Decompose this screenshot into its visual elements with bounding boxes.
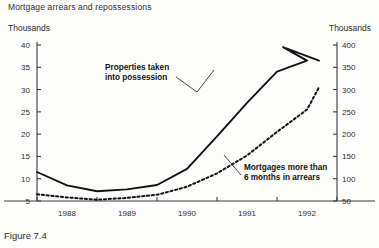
annotation-line-1: Properties taken — [105, 63, 169, 73]
x-axis-tick-1990: 1990 — [178, 209, 196, 218]
x-axis-tick-1991: 1991 — [238, 209, 256, 218]
right-axis-tick-350: 350 — [342, 63, 368, 72]
left-axis-tick-40: 40 — [4, 41, 30, 50]
right-axis-tick-300: 300 — [342, 85, 368, 94]
right-axis-tick-200: 200 — [342, 130, 368, 139]
x-axis-tick-1992: 1992 — [298, 209, 316, 218]
left-axis-tick-35: 35 — [4, 63, 30, 72]
annotation-leader-lines — [176, 70, 241, 175]
left-axis-tick-10: 10 — [4, 174, 30, 183]
right-axis-tick-250: 250 — [342, 107, 368, 116]
annotation-line-2: 6 months in arrears — [244, 173, 327, 183]
annotation-line-2: into possession — [105, 73, 169, 83]
annotation-mortgages-in-arrears: Mortgages more than 6 months in arrears — [244, 163, 327, 183]
right-axis-tick-50: 50 — [342, 197, 368, 206]
right-axis-tick-100: 100 — [342, 174, 368, 183]
x-axis-tick-1989: 1989 — [118, 209, 136, 218]
x-axis-tick-1988: 1988 — [58, 209, 76, 218]
left-axis-tick-5: 5 — [4, 197, 30, 206]
annotation-line-1: Mortgages more than — [244, 163, 327, 173]
left-axis-tick-25: 25 — [4, 107, 30, 116]
figure-container: Mortgage arrears and repossessions Thous… — [0, 0, 379, 248]
right-axis-tick-150: 150 — [342, 152, 368, 161]
left-axis-tick-20: 20 — [4, 130, 30, 139]
left-axis-tick-15: 15 — [4, 152, 30, 161]
figure-caption: Figure 7.4 — [4, 230, 47, 241]
left-axis-tick-30: 30 — [4, 85, 30, 94]
annotation-properties-taken-into-possession: Properties taken into possession — [105, 63, 169, 83]
right-axis-tick-400: 400 — [342, 41, 368, 50]
